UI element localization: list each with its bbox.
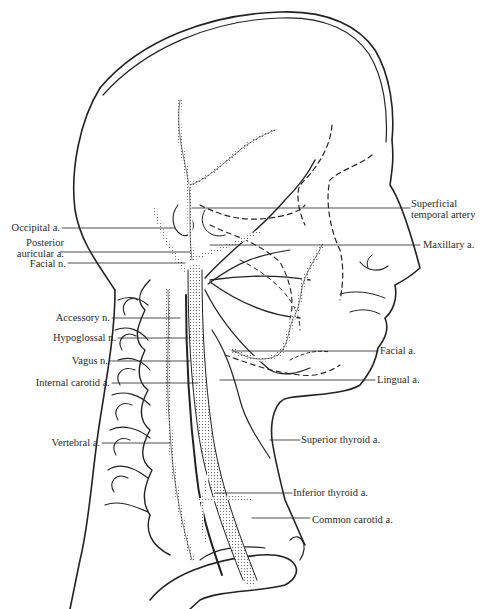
skull-outline	[100, 12, 393, 140]
label-occipital-artery: Occipital a.	[0, 222, 60, 233]
label-facial-artery: Facial a.	[380, 345, 416, 356]
label-superficial-temporal-artery: Superficial temporal artery	[411, 198, 475, 220]
leader-lines-right	[192, 208, 420, 518]
label-facial-nerve: Facial n.	[0, 258, 66, 269]
label-superior-thyroid-artery: Superior thyroid a.	[301, 434, 380, 445]
label-lingual-artery: Lingual a.	[377, 374, 420, 385]
vertebral-artery	[168, 290, 192, 560]
head-outline-back	[70, 88, 115, 609]
label-vagus-nerve: Vagus n.	[0, 355, 108, 366]
face-profile	[272, 140, 420, 545]
label-maxillary-artery: Maxillary a.	[423, 239, 474, 250]
label-accessory-nerve: Accessory n.	[0, 312, 110, 323]
clavicle	[150, 555, 296, 609]
anatomical-illustration	[0, 0, 489, 609]
cervical-vertebrae	[137, 280, 170, 555]
label-internal-carotid-artery: Internal carotid a.	[0, 377, 110, 388]
label-inferior-thyroid-artery: Inferior thyroid a.	[293, 487, 368, 498]
label-posterior-auricular-artery: Posterior auricular a.	[0, 237, 64, 259]
label-hypoglossal-nerve: Hypoglossal n.	[0, 332, 116, 343]
label-common-carotid-artery: Common carotid a.	[312, 514, 393, 525]
label-vertebral-artery: Vertebral a.	[0, 437, 100, 448]
